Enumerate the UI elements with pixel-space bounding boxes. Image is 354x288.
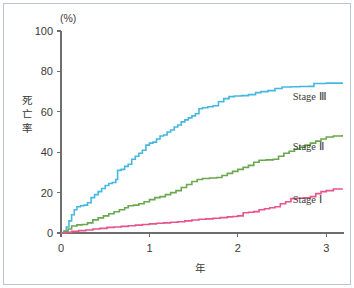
x-axis-tick-label: 2 [235, 242, 241, 254]
y-axis-title: 死亡率 [22, 94, 33, 134]
y-axis-tick-label: 100 [35, 25, 53, 37]
series-label-1: Stage Ⅲ [293, 91, 327, 102]
x-axis-ticks: 0123 [58, 233, 329, 254]
series-labels-group: Stage ⅢStage ⅡStage Ⅰ [293, 91, 327, 205]
x-axis-title: 年 [195, 262, 205, 274]
series-label-3: Stage Ⅰ [293, 194, 322, 205]
y-axis-tick-label: 40 [41, 146, 53, 158]
y-axis-ticks: 020406080100 [35, 25, 61, 239]
y-axis-tick-label: 20 [41, 187, 53, 199]
x-axis-tick-label: 1 [146, 242, 152, 254]
y-axis-unit-label: (%) [60, 12, 76, 24]
x-axis-tick-label: 3 [323, 242, 329, 254]
figure-container: 020406080100 0123 (%) 死亡率 年 Stage ⅢStage… [0, 0, 354, 288]
series-lines-group [61, 83, 342, 233]
y-axis-tick-label: 80 [41, 65, 53, 77]
x-axis-tick-label: 0 [58, 242, 64, 254]
series-line-1 [61, 83, 342, 233]
series-label-2: Stage Ⅱ [293, 141, 324, 152]
y-axis-tick-label: 0 [47, 227, 53, 239]
mortality-rate-line-chart: 020406080100 0123 (%) 死亡率 年 Stage ⅢStage… [0, 0, 354, 288]
y-axis-tick-label: 60 [41, 106, 53, 118]
